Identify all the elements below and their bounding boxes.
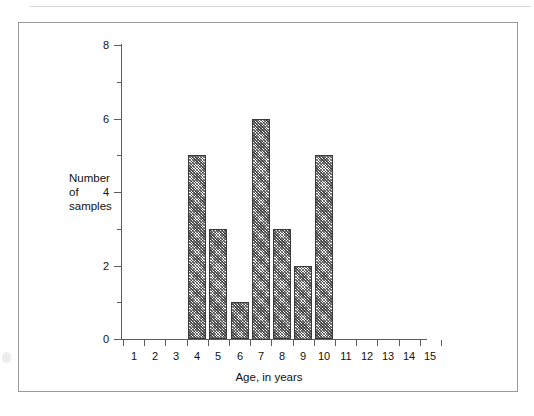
bar — [294, 266, 312, 340]
x-tick-label: 13 — [377, 350, 399, 362]
x-tick-label: 8 — [271, 350, 293, 362]
x-axis-title: Age, in years — [19, 371, 519, 383]
y-tick-minor — [117, 229, 122, 230]
y-tick-label: 6 — [83, 114, 109, 125]
plot-area: 02468 123456789101112131415 Number of sa… — [19, 23, 517, 391]
y-axis-title-line-1: Number — [69, 171, 125, 185]
x-tick — [335, 340, 336, 346]
scan-rule-top — [30, 6, 530, 7]
scan-artifact-speck — [2, 352, 11, 363]
bar — [273, 229, 291, 339]
y-tick-label: 8 — [83, 40, 109, 51]
figure-frame: 02468 123456789101112131415 Number of sa… — [18, 22, 518, 392]
x-tick-label: 10 — [313, 350, 335, 362]
y-axis-title-line-3: samples — [69, 199, 125, 213]
x-tick — [293, 340, 294, 346]
bar — [315, 155, 333, 339]
bar — [188, 155, 206, 339]
x-axis-line — [121, 339, 427, 340]
x-tick-label: 12 — [356, 350, 378, 362]
y-tick-label: 0 — [83, 334, 109, 345]
bar — [209, 229, 227, 339]
x-tick — [144, 340, 145, 346]
x-tick-label: 11 — [335, 350, 357, 362]
x-tick-label: 15 — [419, 350, 441, 362]
x-tick-label: 7 — [250, 350, 272, 362]
x-tick — [377, 340, 378, 346]
x-tick — [208, 340, 209, 346]
x-tick-label: 5 — [207, 350, 229, 362]
y-tick-label: 2 — [83, 261, 109, 272]
y-axis-title: Number of samples — [69, 171, 125, 213]
x-tick — [250, 340, 251, 346]
x-tick — [187, 340, 188, 346]
x-tick — [165, 340, 166, 346]
x-tick-label: 6 — [229, 350, 251, 362]
x-tick — [123, 340, 124, 346]
y-tick-minor — [117, 82, 122, 83]
y-tick-minor — [117, 302, 122, 303]
x-tick-label: 14 — [398, 350, 420, 362]
y-tick-major — [114, 119, 122, 120]
x-tick-label: 3 — [165, 350, 187, 362]
x-tick — [399, 340, 400, 346]
y-tick-minor — [117, 155, 122, 156]
x-tick — [356, 340, 357, 346]
x-tick — [420, 340, 421, 346]
x-tick — [314, 340, 315, 346]
x-tick — [441, 340, 442, 346]
y-tick-major — [114, 339, 122, 340]
y-tick-major — [114, 266, 122, 267]
bar — [252, 119, 270, 340]
x-tick-label: 9 — [292, 350, 314, 362]
x-tick — [271, 340, 272, 346]
x-tick-label: 4 — [186, 350, 208, 362]
y-axis-title-line-2: of — [69, 185, 125, 199]
x-tick-label: 1 — [123, 350, 145, 362]
x-tick-label: 2 — [144, 350, 166, 362]
x-tick — [229, 340, 230, 346]
bar — [231, 302, 249, 339]
y-tick-major — [114, 45, 122, 46]
